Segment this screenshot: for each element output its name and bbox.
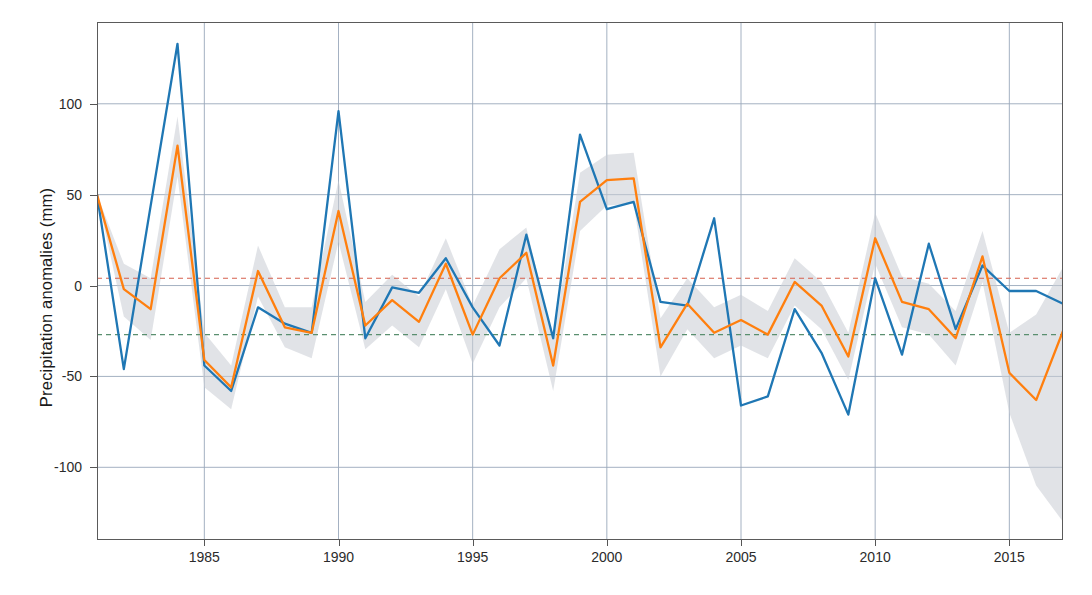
- y-tick-mark: [90, 467, 97, 468]
- x-tick-label: 1985: [189, 549, 220, 565]
- y-tick-mark: [90, 286, 97, 287]
- x-tick-label: 2005: [725, 549, 756, 565]
- y-tick-label: -50: [0, 368, 82, 384]
- x-tick-mark: [473, 540, 474, 546]
- plot-area: [97, 22, 1063, 540]
- x-tick-mark: [607, 540, 608, 546]
- x-tick-mark: [339, 540, 340, 546]
- y-tick-label: 100: [0, 96, 82, 112]
- x-tick-label: 1995: [457, 549, 488, 565]
- x-tick-mark: [741, 540, 742, 546]
- x-tick-label: 2015: [994, 549, 1025, 565]
- x-tick-mark: [1009, 540, 1010, 546]
- x-tick-label: 1990: [323, 549, 354, 565]
- y-tick-label: 50: [0, 187, 82, 203]
- y-tick-mark: [90, 376, 97, 377]
- x-tick-mark: [875, 540, 876, 546]
- chart-canvas: [97, 22, 1063, 540]
- y-axis-label: Precipitation anomalies (mm): [26, 0, 66, 595]
- y-tick-label: 0: [0, 278, 82, 294]
- uncertainty-band: [97, 117, 1063, 522]
- x-tick-label: 2000: [591, 549, 622, 565]
- x-tick-label: 2010: [860, 549, 891, 565]
- precipitation-anomalies-figure: Precipitation anomalies (mm) 100500-50-1…: [0, 0, 1092, 595]
- y-tick-mark: [90, 104, 97, 105]
- y-tick-mark: [90, 195, 97, 196]
- y-tick-label: -100: [0, 459, 82, 475]
- x-tick-mark: [204, 540, 205, 546]
